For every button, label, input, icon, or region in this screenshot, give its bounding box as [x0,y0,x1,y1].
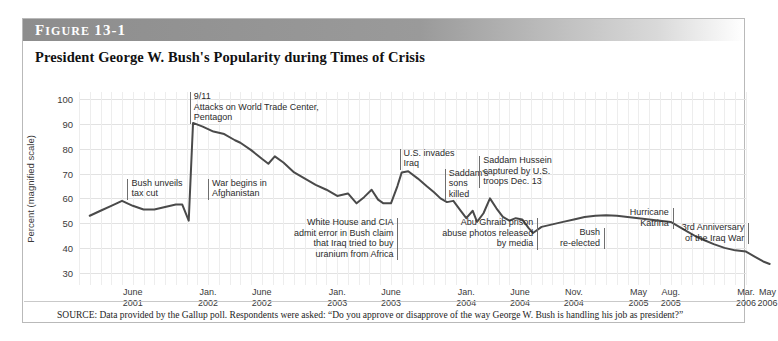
source-note: SOURCE: Data provided by the Gallup poll… [57,310,683,320]
annotation-marker-us-invades-iraq [400,149,401,170]
annotation-marker-bush-unveils-tax-cut [127,179,128,200]
figure-header-bar [23,19,744,41]
x-tick-label: Aug.2005 [661,287,681,308]
x-tick-month: Nov. [565,287,583,297]
annotation-saddam-captured: Saddam Husseincaptured by U.S.troops Dec… [483,155,552,187]
annotation-line: Katrina [640,218,669,228]
x-tick-label: Nov.2004 [564,287,584,308]
annotation-line: Iraq [404,158,420,168]
x-tick-label: Mar.2006 [736,287,756,308]
x-tick-month: May [759,287,776,297]
figure-title: President George W. Bush's Popularity du… [35,49,425,66]
y-axis-title: Percent (magnified scale) [25,135,36,243]
annotation-line: Saddam Hussein [483,155,552,165]
x-tick-label: June2002 [252,287,272,308]
y-tick-label: 70 [62,168,73,179]
x-tick-month: June [381,287,401,297]
annotation-third-anniversary-iraq: 3rd Anniversaryof the Iraq War [682,222,745,243]
annotation-line: White House and CIA [307,217,394,227]
annotation-line: of the Iraq War [685,233,744,243]
y-tick-label: 60 [62,193,73,204]
x-tick-month: Aug. [661,287,680,297]
annotation-nine-eleven: 9/11Attacks on World Trade Center,Pentag… [194,91,319,123]
x-tick-label: Jan.2003 [327,287,347,308]
annotation-line: Bush unveils [131,178,182,188]
annotation-line: U.S. invades [404,148,455,158]
y-tick-label: 50 [62,218,73,229]
annotation-line: killed [449,189,470,199]
x-tick-year: 2001 [123,298,143,308]
x-tick-year: 2006 [758,298,778,308]
x-tick-year: 2004 [564,298,584,308]
x-tick-month: June [252,287,272,297]
annotation-line: Attacks on World Trade Center, [194,102,319,112]
annotation-marker-third-anniversary-iraq [748,223,749,244]
y-tick-label: 30 [62,267,73,278]
annotation-marker-white-house-cia-uranium [397,218,398,260]
x-tick-year: 2005 [661,298,681,308]
y-tick-label: 40 [62,242,73,253]
y-tick-label: 100 [57,94,73,105]
y-tick-label: 80 [62,143,73,154]
annotation-line: captured by U.S. [483,166,550,176]
x-tick-month: Mar. [737,287,755,297]
x-tick-label: Jan.2002 [198,287,218,308]
annotation-line: Afghanistan [212,188,260,198]
gridline-vertical [746,92,747,285]
annotation-war-begins-afghanistan: War begins inAfghanistan [212,178,267,199]
figure-container: FIGURE 13-1 President George W. Bush's P… [22,18,745,323]
x-tick-year: 2004 [456,298,476,308]
annotation-marker-abu-ghraib [537,218,538,250]
chart-plot-area: 30405060708090100 Bush unveilstax cut9/1… [79,92,746,285]
annotation-marker-saddams-sons-killed [445,169,446,201]
annotation-line: that Iraq tried to buy [313,238,393,248]
x-tick-label: May2006 [758,287,778,308]
annotation-line: sons [449,178,468,188]
annotation-hurricane-katrina: HurricaneKatrina [630,207,669,228]
annotation-line: Bush [579,227,600,237]
x-tick-month: Jan. [329,287,346,297]
x-tick-month: June [123,287,143,297]
x-tick-month: May [630,287,647,297]
approval-line-path [90,123,770,264]
chart-plot-wrapper: Percent (magnified scale) 30405060708090… [23,81,746,324]
annotation-line: Abu Ghraib prison [461,217,534,227]
x-tick-month: Jan. [458,287,475,297]
annotation-line: 3rd Anniversary [682,222,745,232]
annotation-line: re-elected [560,238,600,248]
annotation-marker-saddam-captured [479,156,480,188]
x-tick-month: June [510,287,530,297]
source-divider [24,301,745,302]
x-tick-label: Jan.2004 [456,287,476,308]
x-tick-year: 2006 [736,298,756,308]
x-tick-label: June2003 [381,287,401,308]
x-tick-year: 2003 [381,298,401,308]
x-tick-label: May2005 [628,287,648,308]
annotation-marker-hurricane-katrina [673,208,674,229]
x-tick-label: June2001 [123,287,143,308]
annotation-bush-re-elected: Bushre-elected [560,227,600,248]
x-tick-year: 2005 [628,298,648,308]
annotation-marker-nine-eleven [190,92,191,124]
x-tick-year: 2002 [198,298,218,308]
annotation-us-invades-iraq: U.S. invadesIraq [404,148,455,169]
annotation-line: Pentagon [194,112,233,122]
x-tick-label: June2004 [510,287,530,308]
annotation-line: admit error in Bush claim [294,228,394,238]
annotation-line: troops Dec. 13 [483,176,542,186]
annotation-line: abuse photos released [442,228,533,238]
annotation-marker-bush-re-elected [604,228,605,249]
annotation-marker-war-begins-afghanistan [208,179,209,200]
annotation-line: 9/11 [194,91,211,101]
x-tick-year: 2004 [510,298,530,308]
annotation-line: tax cut [131,188,158,198]
y-tick-label: 90 [62,119,73,130]
figure-number-label: FIGURE 13-1 [35,22,126,39]
x-tick-year: 2003 [327,298,347,308]
annotation-line: by media [497,238,534,248]
x-tick-month: Jan. [200,287,217,297]
annotation-line: uranium from Africa [315,249,393,259]
annotation-line: War begins in [212,178,267,188]
annotation-bush-unveils-tax-cut: Bush unveilstax cut [131,178,182,199]
x-tick-year: 2002 [252,298,272,308]
